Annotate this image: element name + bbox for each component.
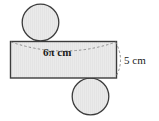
geometry-figure: 6π cm 5 cm — [0, 0, 159, 121]
circumference-label: 6π cm — [43, 47, 71, 58]
bottom-base-circle — [72, 78, 109, 115]
top-base-circle — [22, 4, 59, 41]
height-label: 5 cm — [124, 55, 146, 66]
